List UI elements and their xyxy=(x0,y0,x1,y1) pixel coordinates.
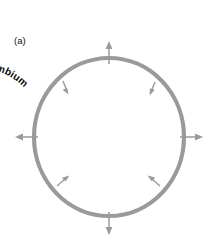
panel-label: (a) xyxy=(14,35,26,46)
tick-arrow-upper-left xyxy=(63,81,69,95)
arrow-up xyxy=(106,41,113,64)
tick-arrow-lower-left xyxy=(57,176,70,187)
cambium-ring xyxy=(34,58,184,216)
tick-arrow-upper-right xyxy=(150,82,156,96)
tick-arrow-lower-right xyxy=(148,176,161,187)
cambium-growth-diagram: (a) Secondary phloem being pushed out fr… xyxy=(0,0,218,246)
diagram-canvas: (a) Secondary phloem being pushed out fr… xyxy=(0,0,218,246)
